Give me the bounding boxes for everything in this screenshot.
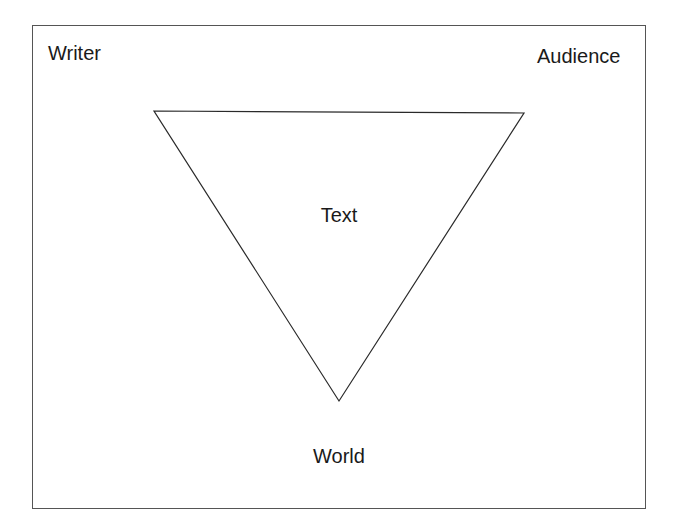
inverted-triangle	[154, 111, 524, 401]
label-world: World	[313, 444, 365, 468]
label-audience: Audience	[537, 44, 620, 68]
label-writer: Writer	[48, 41, 101, 65]
label-text: Text	[321, 203, 358, 227]
